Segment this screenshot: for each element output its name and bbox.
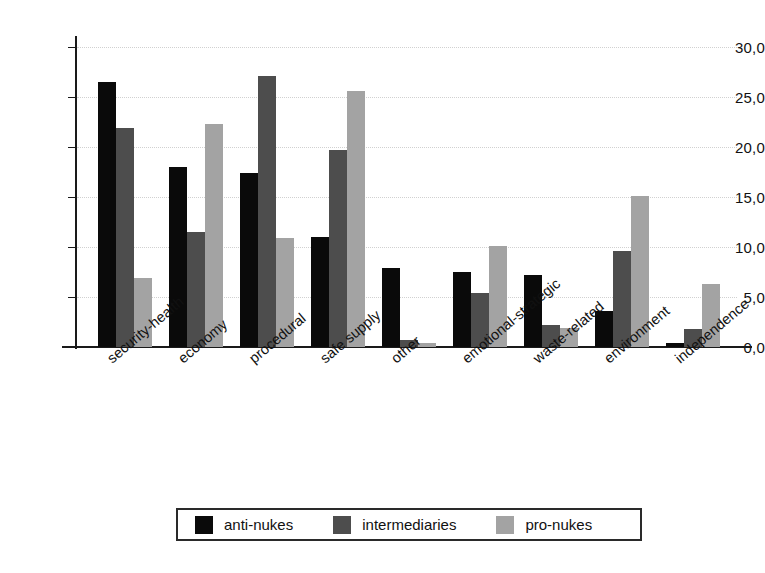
chart-legend: anti-nukesintermediariespro-nukes — [176, 508, 642, 541]
bar-group — [311, 47, 365, 347]
bar-group — [382, 47, 436, 347]
legend-label: pro-nukes — [525, 516, 592, 533]
bar — [258, 76, 276, 347]
legend-label: intermediaries — [362, 516, 456, 533]
bar — [240, 173, 258, 347]
bar — [329, 150, 347, 347]
bar-group — [595, 47, 649, 347]
bar-group — [453, 47, 507, 347]
bar — [311, 237, 329, 347]
bar — [98, 82, 116, 347]
legend-label: anti-nukes — [224, 516, 293, 533]
bar-group — [98, 47, 152, 347]
legend-item[interactable]: intermediaries — [333, 510, 456, 539]
legend-swatch — [195, 516, 213, 534]
bar — [347, 91, 365, 347]
legend-item[interactable]: pro-nukes — [496, 510, 592, 539]
legend-swatch — [496, 516, 514, 534]
bar — [453, 272, 471, 347]
bar-group — [240, 47, 294, 347]
bar-group — [666, 47, 720, 347]
legend-swatch — [333, 516, 351, 534]
bar-chart: 0,05,010,015,020,025,030,0 security-heal… — [0, 0, 765, 573]
legend-item[interactable]: anti-nukes — [195, 510, 293, 539]
bar — [169, 167, 187, 347]
bar — [382, 268, 400, 347]
bar — [205, 124, 223, 347]
bar — [116, 128, 134, 347]
